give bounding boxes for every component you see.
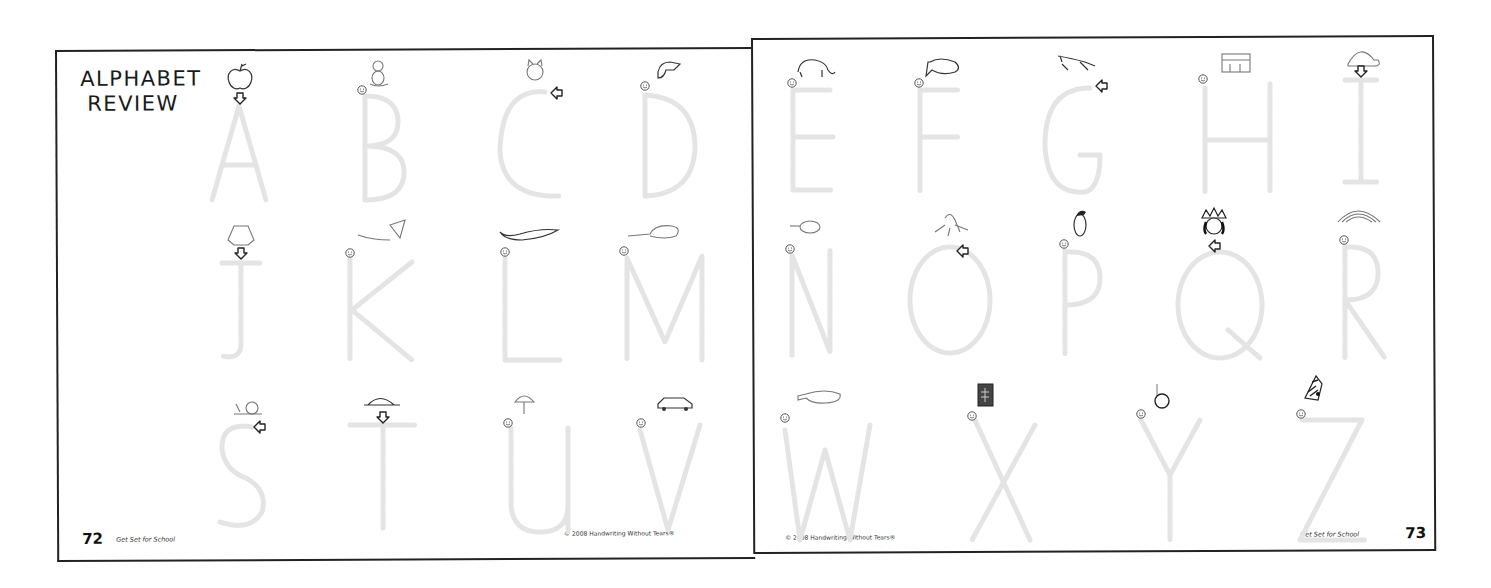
grasshopper-icon <box>1058 56 1095 70</box>
smiley-start-icon <box>641 82 649 90</box>
letter-c <box>500 60 562 196</box>
letter-o <box>910 214 990 353</box>
smiley-start-icon <box>620 247 628 255</box>
letter-tracing-layer <box>0 0 1491 588</box>
cat-icon <box>527 60 543 80</box>
letter-y <box>1137 384 1200 540</box>
arrow-left-icon <box>254 421 265 433</box>
letter-z <box>1297 376 1365 540</box>
letter-j <box>222 226 260 357</box>
smiley-start-icon <box>1340 236 1348 244</box>
smiley-start-icon <box>1060 240 1068 248</box>
letter-r <box>1338 211 1385 358</box>
jacket-icon <box>228 226 254 245</box>
letter-g <box>1045 56 1107 192</box>
house-icon <box>1222 54 1250 72</box>
smiley-start-icon <box>504 419 512 427</box>
smiley-start-icon <box>358 86 366 94</box>
letter-k <box>346 220 412 360</box>
letter-m <box>620 226 702 360</box>
letter-h <box>1199 54 1270 192</box>
letter-u <box>504 396 568 532</box>
smiley-start-icon <box>1297 410 1305 418</box>
arrow-down-icon <box>1355 66 1367 77</box>
octopus-icon <box>935 214 968 236</box>
smiley-start-icon <box>1137 410 1145 418</box>
smiley-start-icon <box>788 79 796 87</box>
letter-f <box>915 59 959 192</box>
umbrella-icon <box>515 396 534 414</box>
letter-a <box>212 64 266 200</box>
letter-e <box>788 60 835 190</box>
dog-icon <box>658 62 680 78</box>
x-ray-icon <box>978 384 993 406</box>
zebra-icon <box>1305 376 1322 400</box>
letter-b <box>358 61 404 200</box>
arrow-down-icon <box>235 248 247 259</box>
letter-n <box>786 221 830 355</box>
elephant-icon <box>798 60 835 77</box>
letter-p <box>1060 211 1100 355</box>
igloo-icon <box>1348 52 1379 66</box>
smiley-start-icon <box>781 414 789 422</box>
letter-x <box>968 384 1035 540</box>
arrow-left-icon <box>551 87 562 99</box>
whale-icon <box>798 391 840 403</box>
arrow-down-icon <box>234 93 246 104</box>
teddy-bear-icon <box>370 61 388 86</box>
mouse-icon <box>628 226 678 238</box>
arrow-down-icon <box>377 412 389 423</box>
smiley-start-icon <box>346 249 354 257</box>
kite-icon <box>358 220 405 240</box>
lizard-icon <box>500 230 558 241</box>
letter-v <box>637 398 700 530</box>
smiley-start-icon <box>501 248 509 256</box>
smiley-start-icon <box>786 245 794 253</box>
apple-icon <box>228 64 252 89</box>
letter-t <box>350 399 415 529</box>
yo-yo-icon <box>1155 384 1169 408</box>
queen-icon <box>1202 208 1226 234</box>
snail-icon <box>234 402 262 414</box>
net-icon <box>790 221 820 233</box>
letter-s <box>220 402 265 525</box>
smiley-start-icon <box>968 412 976 420</box>
smiley-start-icon <box>637 419 645 427</box>
rainbow-icon <box>1338 211 1380 222</box>
smiley-start-icon <box>1199 75 1207 83</box>
letter-d <box>641 62 695 196</box>
letter-i <box>1345 52 1379 182</box>
letter-w <box>781 391 870 540</box>
turtle-icon <box>364 399 400 406</box>
fish-icon <box>926 59 959 76</box>
van-icon <box>658 398 692 411</box>
arrow-left-icon <box>1096 80 1107 92</box>
penguin-icon <box>1074 211 1086 236</box>
letter-q <box>1178 208 1262 358</box>
smiley-start-icon <box>915 79 923 87</box>
letter-l <box>500 230 560 361</box>
